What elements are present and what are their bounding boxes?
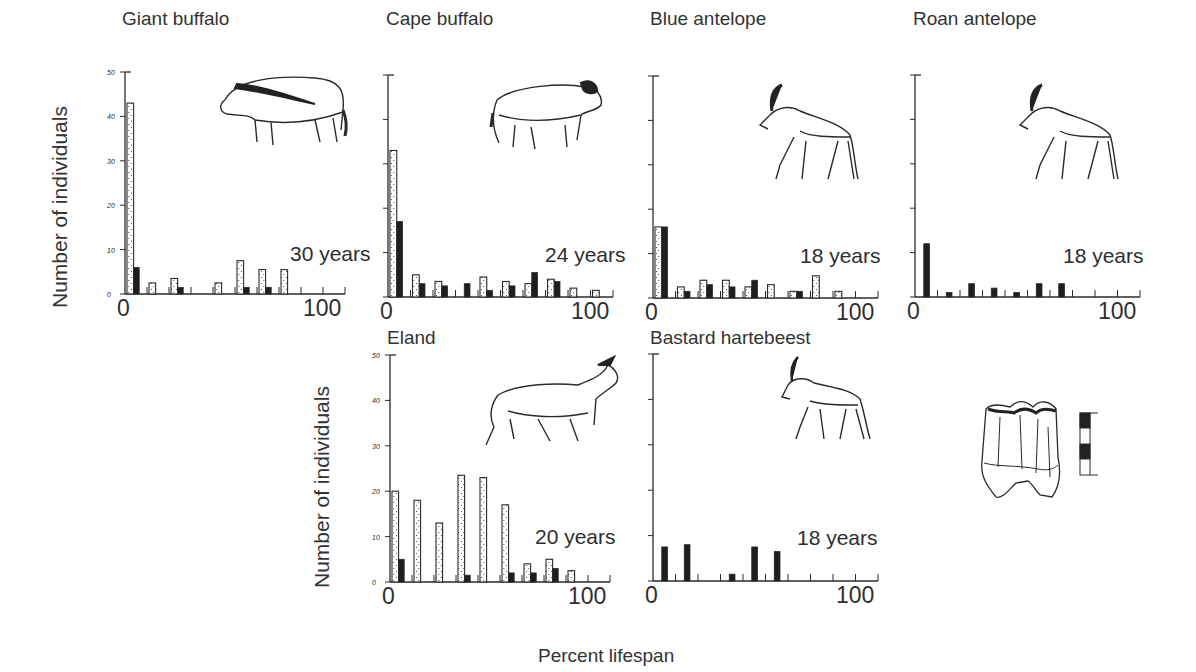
tooth-illustration-icon bbox=[0, 0, 1196, 672]
